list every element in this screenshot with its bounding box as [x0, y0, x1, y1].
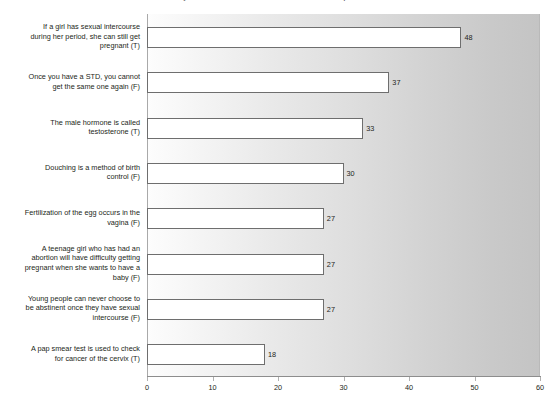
bar-row: 37 [147, 72, 540, 93]
bar-row: 27 [147, 208, 540, 229]
category-label: A pap smear test is used to check for ca… [0, 344, 140, 363]
x-axis-tick-label: 0 [145, 383, 149, 392]
x-axis-tick [344, 377, 345, 381]
bar-value-label: 27 [327, 305, 335, 314]
bar[interactable] [147, 163, 344, 184]
bar[interactable] [147, 72, 389, 93]
x-axis-tick-label: 50 [470, 383, 478, 392]
bar-row: 27 [147, 299, 540, 320]
bar-row: 30 [147, 163, 540, 184]
category-label: The male hormone is called testosterone … [0, 118, 140, 137]
category-axis-spine [147, 14, 148, 377]
bar-value-label: 37 [392, 78, 400, 87]
bar-value-label: 30 [347, 169, 355, 178]
bar-value-label: 18 [268, 350, 276, 359]
bar-row: 48 [147, 27, 540, 48]
category-label: Once you have a STD, you cannot get the … [0, 72, 140, 91]
x-axis-tick [213, 377, 214, 381]
x-axis-tick [475, 377, 476, 381]
x-axis-tick [278, 377, 279, 381]
bar-row: 27 [147, 254, 540, 275]
bar[interactable] [147, 299, 324, 320]
bar[interactable] [147, 118, 363, 139]
bar-chart-figure: What they do if unsure about what is tru… [0, 0, 553, 416]
x-axis-tick [147, 377, 148, 381]
x-axis-tick [540, 377, 541, 381]
bar[interactable] [147, 344, 265, 365]
bar-row: 33 [147, 118, 540, 139]
category-label: Douching is a method of birth control (F… [0, 163, 140, 182]
x-axis-tick-label: 60 [536, 383, 544, 392]
bar[interactable] [147, 208, 324, 229]
category-label: If a girl has sexual intercourse during … [0, 22, 140, 51]
plot-area [147, 14, 540, 376]
bar[interactable] [147, 254, 324, 275]
x-axis-tick-label: 40 [405, 383, 413, 392]
bar[interactable] [147, 27, 461, 48]
bar-value-label: 48 [464, 33, 472, 42]
chart-title: What they do if unsure about what is tru… [0, 0, 553, 1]
x-axis-tick-label: 10 [208, 383, 216, 392]
x-axis-tick [409, 377, 410, 381]
bar-row: 18 [147, 344, 540, 365]
x-axis-tick-label: 20 [274, 383, 282, 392]
category-label: A teenage girl who has had an abortion w… [0, 244, 140, 282]
bar-value-label: 27 [327, 214, 335, 223]
category-label: Young people can never choose to be abst… [0, 294, 140, 323]
bar-value-label: 33 [366, 124, 374, 133]
x-axis-tick-label: 30 [339, 383, 347, 392]
category-label: Fertilization of the egg occurs in the v… [0, 208, 140, 227]
bar-value-label: 27 [327, 260, 335, 269]
